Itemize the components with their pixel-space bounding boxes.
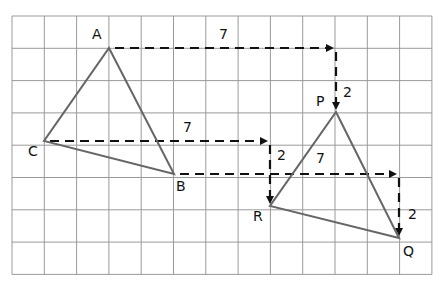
vertex-label-p: P [316,93,324,109]
translation-c-horizontal: 7 [183,119,192,135]
translation-c-vertical: 2 [277,147,286,163]
vertex-label-c: C [28,143,38,159]
vertex-label-q: Q [403,243,414,259]
translation-a-vertical: 2 [343,84,352,100]
translation-diagram [0,0,441,283]
vertex-label-b: B [176,178,186,194]
vertex-label-r: R [253,208,263,224]
vertex-label-a: A [92,26,102,42]
translation-a-horizontal: 7 [219,26,228,42]
translation-b-horizontal: 7 [316,150,325,166]
translation-b-vertical: 2 [408,206,417,222]
grid [12,16,432,274]
